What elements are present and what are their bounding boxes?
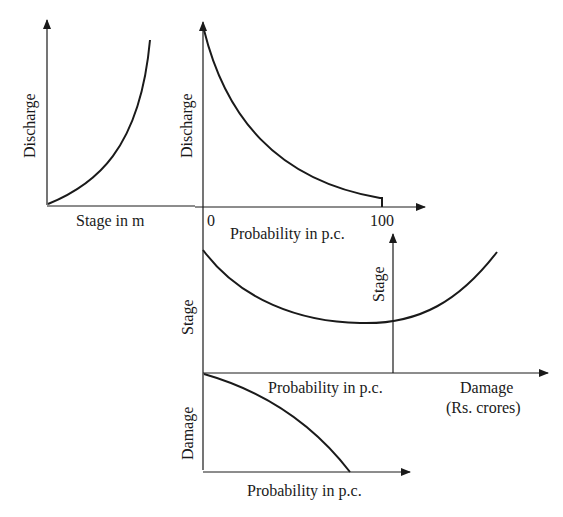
stage-probability-xlabel: Probability in p.c.	[268, 380, 383, 396]
damage-probability-ylabel: Damage	[180, 407, 196, 460]
stage-probability-curve	[203, 250, 497, 323]
discharge-probability-xlabel: Probability in p.c.	[230, 226, 345, 242]
damage-probability-xlabel: Probability in p.c.	[247, 483, 362, 499]
discharge-probability-ylabel: Discharge	[179, 93, 195, 158]
damage-unit-label: (Rs. crores)	[446, 400, 521, 416]
tick-hundred: 100	[370, 213, 394, 229]
stage-damage-ylabel: Stage	[371, 266, 387, 302]
stage-discharge-ylabel: Discharge	[22, 93, 38, 158]
stage-probability-ylabel: Stage	[180, 299, 196, 335]
damage-xlabel: Damage	[460, 380, 513, 396]
discharge-probability-curve	[204, 30, 382, 207]
tick-zero: 0	[207, 213, 215, 229]
stage-discharge-curve	[48, 40, 150, 204]
diagram-canvas	[0, 0, 563, 517]
stage-discharge-xlabel: Stage in m	[76, 213, 144, 229]
